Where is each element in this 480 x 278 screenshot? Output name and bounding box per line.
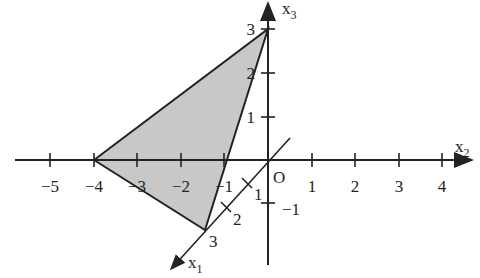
origin-label: O xyxy=(273,168,285,187)
x3-tick-label: 2 xyxy=(247,64,256,83)
x2-tick-label: −1 xyxy=(215,177,233,196)
x2-tick-label: 4 xyxy=(438,177,447,196)
x2-tick-label: −4 xyxy=(85,177,104,196)
x3-axis-label: x3 xyxy=(282,0,297,22)
coordinate-diagram: −5 −4 −3 −2 −1 1 2 3 4 3 2 1 −1 1 2 3 O … xyxy=(0,0,480,278)
x2-tick-label: 1 xyxy=(308,177,317,196)
x2-tick-label: −2 xyxy=(172,177,190,196)
x3-tick-label: 3 xyxy=(247,20,256,39)
x3-tick-label: −1 xyxy=(282,200,300,219)
x1-tick-label: 2 xyxy=(233,210,242,229)
shaded-triangle xyxy=(94,29,268,230)
x2-axis-label: x2 xyxy=(455,137,470,160)
x2-tick-label: −3 xyxy=(128,177,146,196)
x1-tick-label: 3 xyxy=(209,232,218,251)
x1-tick-label: 1 xyxy=(254,185,263,204)
x2-tick-label: −5 xyxy=(41,177,59,196)
x2-tick-label: 3 xyxy=(395,177,404,196)
x1-axis-label: x1 xyxy=(188,253,203,276)
x2-tick-label: 2 xyxy=(351,177,360,196)
x3-tick-label: 1 xyxy=(247,108,256,127)
